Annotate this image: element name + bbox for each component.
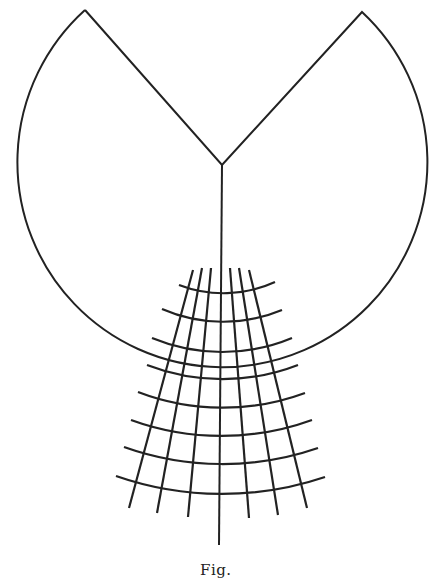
grid-arc-6 bbox=[131, 420, 312, 436]
central-stem-line bbox=[219, 165, 222, 545]
grid-ray-1 bbox=[129, 270, 193, 508]
grid-ray-3 bbox=[188, 268, 211, 517]
grid-arc-7 bbox=[124, 447, 318, 464]
grid-arc-1 bbox=[179, 282, 275, 293]
figure-caption: Fig. bbox=[200, 561, 232, 579]
grid-ray-4 bbox=[230, 268, 249, 518]
grid-ray-2 bbox=[157, 268, 202, 513]
